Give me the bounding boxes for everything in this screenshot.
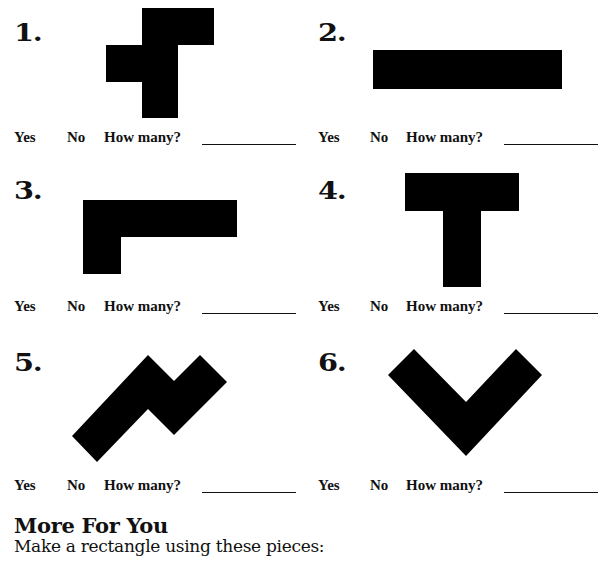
- how-many-label: How many?: [104, 478, 181, 493]
- problem-number-4: 4.: [318, 178, 346, 203]
- yes-option[interactable]: Yes: [14, 478, 36, 493]
- no-option[interactable]: No: [67, 478, 85, 493]
- problem-number-1: 1.: [14, 20, 42, 45]
- problem-number-6: 6.: [318, 350, 346, 375]
- no-option[interactable]: No: [370, 299, 388, 314]
- how-many-blank[interactable]: [202, 144, 296, 145]
- no-option[interactable]: No: [67, 130, 85, 145]
- how-many-label: How many?: [104, 299, 181, 314]
- how-many-blank[interactable]: [504, 313, 598, 314]
- how-many-blank[interactable]: [504, 492, 598, 493]
- yes-option[interactable]: Yes: [318, 478, 340, 493]
- yes-option[interactable]: Yes: [318, 130, 340, 145]
- how-many-blank[interactable]: [202, 492, 296, 493]
- how-many-label: How many?: [406, 130, 483, 145]
- no-option[interactable]: No: [67, 299, 85, 314]
- problem-number-5: 5.: [14, 350, 42, 375]
- yes-option[interactable]: Yes: [318, 299, 340, 314]
- no-option[interactable]: No: [370, 478, 388, 493]
- problem-number-2: 2.: [318, 20, 346, 45]
- no-option[interactable]: No: [370, 130, 388, 145]
- shape-6: [388, 349, 542, 456]
- how-many-label: How many?: [104, 130, 181, 145]
- shape-1: [106, 8, 214, 118]
- shapes-layer: [0, 0, 608, 569]
- how-many-label: How many?: [406, 478, 483, 493]
- shape-4: [405, 173, 519, 287]
- how-many-blank[interactable]: [202, 313, 296, 314]
- yes-option[interactable]: Yes: [14, 299, 36, 314]
- section-instruction: Make a rectangle using these pieces:: [14, 537, 324, 556]
- how-many-blank[interactable]: [504, 144, 598, 145]
- shape-3: [83, 200, 237, 274]
- shape-2: [373, 50, 562, 89]
- yes-option[interactable]: Yes: [14, 130, 36, 145]
- section-title: More For You: [14, 515, 168, 536]
- problem-number-3: 3.: [14, 178, 42, 203]
- shape-5: [72, 355, 227, 462]
- how-many-label: How many?: [406, 299, 483, 314]
